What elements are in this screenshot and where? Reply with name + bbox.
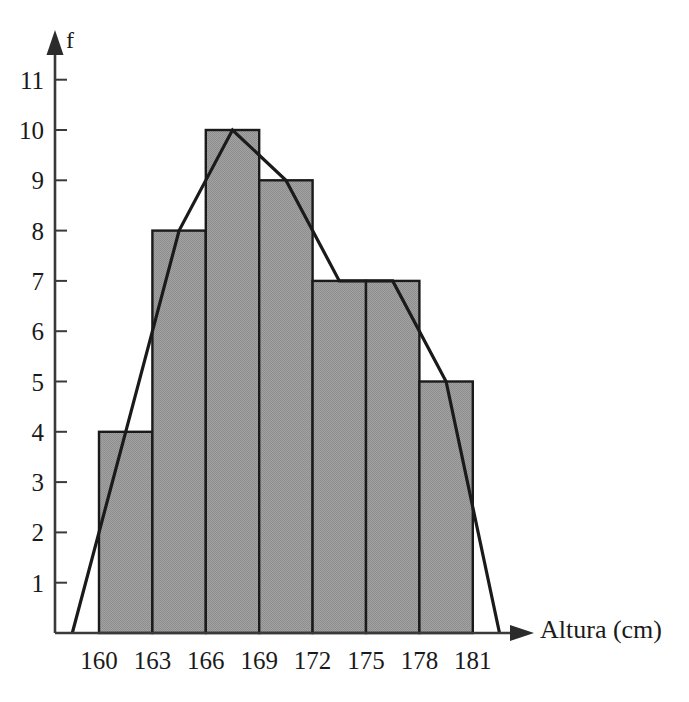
histogram-chart: f Altura (cm) 1234567891011 160163166169… (0, 0, 689, 702)
y-tick-label: 11 (10, 68, 44, 93)
y-axis-arrow-icon (47, 30, 64, 55)
chart-canvas (0, 0, 689, 702)
histogram-bar (366, 281, 419, 633)
x-tick-label: 175 (336, 648, 396, 673)
x-tick-label: 163 (122, 648, 182, 673)
y-tick-label: 3 (10, 470, 44, 495)
y-tick-label: 6 (10, 319, 44, 344)
x-tick-label: 181 (443, 648, 503, 673)
histogram-bar (206, 130, 259, 633)
y-axis-ticks (55, 80, 67, 583)
y-tick-label: 2 (10, 520, 44, 545)
histogram-bar (152, 231, 205, 633)
y-tick-label: 10 (10, 118, 44, 143)
x-axis-title: Altura (cm) (540, 617, 662, 643)
y-tick-label: 5 (10, 370, 44, 395)
y-tick-label: 7 (10, 269, 44, 294)
y-tick-label: 9 (10, 168, 44, 193)
histogram-bar (99, 432, 152, 633)
histogram-bar (313, 281, 366, 633)
x-axis-arrow-icon (510, 625, 534, 641)
y-tick-label: 8 (10, 219, 44, 244)
histogram-bar (419, 382, 472, 634)
x-tick-label: 166 (176, 648, 236, 673)
y-axis-title: f (66, 28, 74, 52)
histogram-bar (259, 180, 312, 633)
histogram-bars (99, 130, 473, 633)
x-tick-label: 172 (283, 648, 343, 673)
x-tick-label: 178 (389, 648, 449, 673)
x-tick-label: 160 (69, 648, 129, 673)
y-tick-label: 4 (10, 420, 44, 445)
x-tick-label: 169 (229, 648, 289, 673)
y-tick-label: 1 (10, 571, 44, 596)
